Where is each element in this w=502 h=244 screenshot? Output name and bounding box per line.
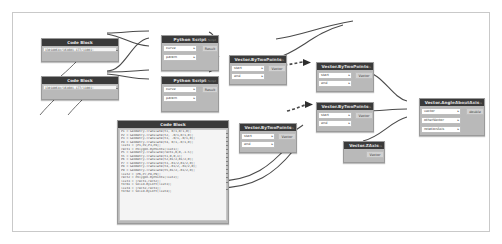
port-label: rotationAxis bbox=[424, 126, 444, 133]
output-port-double[interactable]: double bbox=[466, 108, 484, 115]
wire-vbtp4-vbtp3 bbox=[287, 105, 305, 111]
port-label: end bbox=[234, 73, 240, 80]
port-label: end bbox=[244, 141, 250, 148]
code-block-editor[interactable]: P1 = Geometry.Translate(t1, 0/1,0/1,0); … bbox=[119, 129, 227, 221]
chevron-right-icon: ▸ bbox=[271, 141, 273, 148]
port-label: vector bbox=[424, 108, 435, 115]
node-footer-label: Vector.ByTwoPoints bbox=[257, 58, 284, 62]
node-vector-bytwopoints-3[interactable]: Vector.ByTwoPoints start ▸ end ▸ Vector … bbox=[316, 102, 374, 132]
wire-top-extra bbox=[276, 21, 353, 39]
output-port-dot[interactable] bbox=[226, 189, 228, 190]
chevron-right-icon: ▸ bbox=[457, 117, 459, 124]
output-port-vector[interactable]: Vector bbox=[278, 133, 296, 140]
port-label: start bbox=[321, 112, 329, 119]
node-vector-bytwopoints-4[interactable]: Vector.ByTwoPoints start ▸ end ▸ Vector … bbox=[239, 123, 297, 153]
node-code-block-2[interactable]: Code Block 13018064x/164601.177/11001; bbox=[41, 76, 119, 100]
node-graph-canvas[interactable]: Code Block 13018064x/164601.177/11001; C… bbox=[12, 12, 490, 232]
node-title: Code Block bbox=[118, 121, 228, 128]
output-port-vector[interactable]: Vector bbox=[366, 151, 384, 158]
input-port-start[interactable]: start ▸ bbox=[318, 112, 352, 119]
output-port-dot[interactable] bbox=[226, 133, 228, 134]
input-port-end[interactable]: end ▸ bbox=[318, 80, 352, 87]
chevron-right-icon: ▸ bbox=[348, 72, 350, 79]
output-port-vector[interactable]: Vector bbox=[355, 112, 373, 119]
chevron-right-icon: ▸ bbox=[457, 126, 459, 133]
node-code-block-1[interactable]: Code Block 13018064x/164601.177/11001; bbox=[41, 38, 119, 62]
input-port-vector[interactable]: vector ▸ bbox=[421, 108, 461, 115]
output-port-dot[interactable] bbox=[226, 173, 228, 174]
input-port-start[interactable]: start ▸ bbox=[231, 65, 265, 72]
node-vector-angleaboutaxis[interactable]: Vector.AngleAboutAxis vector ▸ otherVect… bbox=[419, 98, 485, 136]
chevron-right-icon: ▸ bbox=[193, 95, 195, 102]
node-footer-label: Vector.ZAxis bbox=[365, 144, 382, 148]
input-port-start[interactable]: start ▸ bbox=[318, 72, 352, 79]
chevron-right-icon: ▸ bbox=[457, 108, 459, 115]
output-port-dot[interactable] bbox=[226, 157, 228, 158]
port-label: start bbox=[321, 72, 329, 79]
node-footer-label: Vector.ByTwoPoints bbox=[344, 105, 371, 109]
port-label: curve bbox=[166, 86, 176, 93]
screenshot-root: Code Block 13018064x/164601.177/11001; C… bbox=[0, 0, 502, 244]
input-port-othervector[interactable]: otherVector ▸ bbox=[421, 117, 461, 124]
port-label: end bbox=[321, 80, 327, 87]
output-port-dot[interactable] bbox=[226, 182, 228, 183]
input-port-end[interactable]: end ▸ bbox=[241, 141, 275, 148]
node-vector-bytwopoints-1[interactable]: Vector.ByTwoPoints start ▸ end ▸ Vector … bbox=[229, 55, 287, 85]
input-port-param[interactable]: param ▸ bbox=[163, 54, 197, 61]
node-python-script-1[interactable]: Python Script curve ▸ param ▸ Result Pyt… bbox=[161, 35, 219, 71]
input-port-start[interactable]: start ▸ bbox=[241, 133, 275, 140]
port-label: start bbox=[244, 133, 252, 140]
chevron-right-icon: ▸ bbox=[193, 86, 195, 93]
wire-leader-3 bbox=[68, 99, 83, 115]
node-footer-label: Python Script bbox=[197, 79, 216, 83]
node-footer-label: Vector.ByTwoPoints bbox=[344, 65, 371, 69]
output-port-vector[interactable]: Vector bbox=[355, 72, 373, 79]
input-port-param[interactable]: param ▸ bbox=[163, 95, 197, 102]
port-label: end bbox=[321, 120, 327, 127]
chevron-right-icon: ▸ bbox=[261, 73, 263, 80]
wire-leader-2 bbox=[40, 99, 55, 115]
node-footer-label: Python Script bbox=[197, 38, 216, 42]
chevron-right-icon: ▸ bbox=[348, 120, 350, 127]
chevron-right-icon: ▸ bbox=[271, 133, 273, 140]
port-label: curve bbox=[166, 45, 176, 52]
port-label: otherVector bbox=[424, 117, 444, 124]
output-port-dot[interactable] bbox=[226, 153, 228, 154]
chevron-right-icon: ▸ bbox=[348, 80, 350, 87]
port-label: start bbox=[234, 65, 242, 72]
wire-vbtp1-right bbox=[276, 25, 343, 58]
input-port-curve[interactable]: curve ▸ bbox=[163, 86, 197, 93]
input-port-end[interactable]: end ▸ bbox=[231, 73, 265, 80]
output-port-dot[interactable] bbox=[226, 149, 228, 150]
wire-arrowheads bbox=[303, 59, 313, 108]
output-port-dot[interactable] bbox=[226, 177, 228, 178]
code-block-input[interactable]: 13018064x/164601.177/11001; bbox=[43, 47, 117, 52]
chevron-right-icon: ▸ bbox=[193, 45, 195, 52]
node-vector-bytwopoints-2[interactable]: Vector.ByTwoPoints start ▸ end ▸ Vector … bbox=[316, 62, 374, 92]
wire-cb2-py2 bbox=[107, 70, 149, 72]
wire-cb1-py1 bbox=[107, 31, 149, 33]
output-port-dot[interactable] bbox=[116, 50, 118, 51]
code-block-input[interactable]: 13018064x/164601.177/11001; bbox=[43, 85, 117, 90]
input-port-rotationaxis[interactable]: rotationAxis ▸ bbox=[421, 126, 461, 133]
port-label: param bbox=[166, 54, 177, 61]
output-port-dot[interactable] bbox=[226, 141, 228, 142]
output-port-dot[interactable] bbox=[116, 88, 118, 89]
node-title: Code Block bbox=[42, 77, 118, 84]
node-python-script-2[interactable]: Python Script curve ▸ param ▸ Result Pyt… bbox=[161, 76, 219, 112]
output-port-vector[interactable]: Vector bbox=[268, 65, 286, 72]
node-footer-label: Vector.ByTwoPoints bbox=[267, 126, 294, 130]
node-vector-zaxis[interactable]: Vector.ZAxis Vector Vector.ZAxis bbox=[343, 141, 385, 163]
output-port-result[interactable]: Result bbox=[202, 45, 218, 52]
output-port-dot[interactable] bbox=[226, 161, 228, 162]
chevron-right-icon: ▸ bbox=[261, 65, 263, 72]
input-port-end[interactable]: end ▸ bbox=[318, 120, 352, 127]
output-port-dot[interactable] bbox=[226, 169, 228, 170]
output-port-dot[interactable] bbox=[226, 137, 228, 138]
input-port-curve[interactable]: curve ▸ bbox=[163, 45, 197, 52]
output-port-dot[interactable] bbox=[226, 145, 228, 146]
output-port-result[interactable]: Result bbox=[202, 86, 218, 93]
output-port-dot[interactable] bbox=[226, 165, 228, 166]
node-code-block-3[interactable]: Code Block P1 = Geometry.Translate(t1, 0… bbox=[117, 120, 229, 224]
chevron-right-icon: ▸ bbox=[193, 54, 195, 61]
